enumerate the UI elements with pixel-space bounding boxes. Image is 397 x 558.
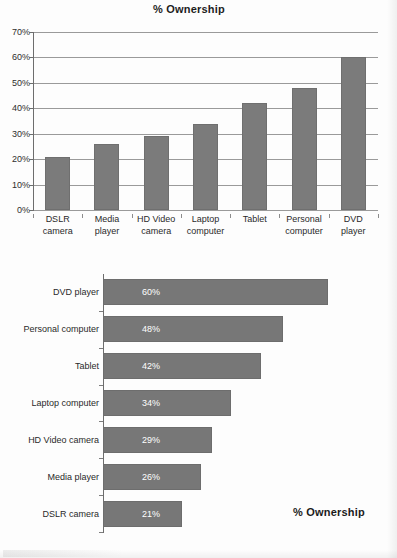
gridline xyxy=(33,210,378,211)
column-bar xyxy=(292,88,317,210)
bar-value-label: 48% xyxy=(142,324,160,334)
y-axis-tick-label: 30% xyxy=(2,129,30,139)
x-axis-category-line: computer xyxy=(279,226,328,238)
axis-tick-mark xyxy=(99,421,103,422)
axis-tick-mark xyxy=(99,348,103,349)
x-axis-category-line: Tablet xyxy=(230,214,279,226)
bar-chart-bar: 29% xyxy=(103,427,212,453)
column-chart-plot-area xyxy=(33,32,378,210)
bar-chart-bar: 48% xyxy=(103,316,283,342)
bar-category-label: HD Video camera xyxy=(3,435,99,445)
bar-chart-bar: 21% xyxy=(103,501,182,527)
bar-chart-bar: 42% xyxy=(103,353,261,379)
column-bar xyxy=(45,157,70,210)
y-axis-tick-label: 70% xyxy=(2,27,30,37)
x-axis-category-label: Laptopcomputer xyxy=(181,214,230,237)
column-bar xyxy=(341,57,366,210)
x-axis-category-line: computer xyxy=(181,226,230,238)
x-axis-category-line: Personal xyxy=(279,214,328,226)
y-axis-tick-label: 10% xyxy=(2,180,30,190)
x-axis-category-label: Personalcomputer xyxy=(279,214,328,237)
column-chart-title: % Ownership xyxy=(0,3,378,15)
x-axis-category-line: camera xyxy=(132,226,181,238)
bar-chart-bar: 60% xyxy=(103,279,328,305)
bar-category-label: DVD player xyxy=(3,287,99,297)
scan-artifact xyxy=(3,550,123,557)
bar-chart-bar: 26% xyxy=(103,464,201,490)
bar-chart-axis-line xyxy=(103,274,104,533)
column-bar xyxy=(144,136,169,210)
axis-tick-mark xyxy=(99,311,103,312)
x-axis-category-line: camera xyxy=(33,226,82,238)
axis-tick-mark xyxy=(99,495,103,496)
gridline xyxy=(33,57,378,58)
y-axis-tick-label: 20% xyxy=(2,154,30,164)
bar-value-label: 34% xyxy=(142,398,160,408)
gridline xyxy=(33,83,378,84)
axis-tick-mark xyxy=(99,532,103,533)
x-axis-category-line: HD Video xyxy=(132,214,181,226)
x-axis-category-line: DSLR xyxy=(33,214,82,226)
bar-chart-bar: 34% xyxy=(103,390,231,416)
x-axis-category-label: DSLRcamera xyxy=(33,214,82,237)
y-axis-tick-label: 0% xyxy=(2,205,30,215)
column-chart-y-axis-line xyxy=(33,32,34,211)
bar-chart-plot-area: 60%48%42%34%29%26%21% xyxy=(103,274,381,532)
bar-category-label: Personal computer xyxy=(3,324,99,334)
x-axis-category-label: DVDplayer xyxy=(329,214,378,237)
column-chart-x-axis-labels: DSLRcameraMediaplayerHD VideocameraLapto… xyxy=(33,214,378,256)
x-axis-category-line: player xyxy=(82,226,131,238)
y-axis-tick-label: 50% xyxy=(2,78,30,88)
bar-value-label: 42% xyxy=(142,361,160,371)
page-canvas: % Ownership 0%10%20%30%40%50%60%70% DSLR… xyxy=(0,0,397,558)
bar-category-label: Media player xyxy=(3,472,99,482)
column-bar xyxy=(242,103,267,210)
axis-tick-mark xyxy=(99,385,103,386)
bar-value-label: 29% xyxy=(142,435,160,445)
bar-value-label: 21% xyxy=(142,509,160,519)
bar-category-label: Tablet xyxy=(3,361,99,371)
x-axis-category-label: Mediaplayer xyxy=(82,214,131,237)
bar-chart-legend-label: % Ownership xyxy=(293,506,365,518)
x-axis-separator-tick xyxy=(33,214,34,218)
x-axis-category-label: Tablet xyxy=(230,214,279,226)
column-bar xyxy=(94,144,119,210)
gridline xyxy=(33,32,378,33)
bar-category-label: Laptop computer xyxy=(3,398,99,408)
x-axis-category-line: DVD xyxy=(329,214,378,226)
x-axis-category-line: Media xyxy=(82,214,131,226)
bar-category-label: DSLR camera xyxy=(3,509,99,519)
bar-chart: DVD playerPersonal computerTabletLaptop … xyxy=(0,268,390,540)
column-chart: % Ownership 0%10%20%30%40%50%60%70% DSLR… xyxy=(0,0,390,262)
y-axis-tick-label: 40% xyxy=(2,103,30,113)
bar-value-label: 60% xyxy=(142,287,160,297)
column-chart-y-axis-labels: 0%10%20%30%40%50%60%70% xyxy=(0,32,30,211)
x-axis-separator-tick xyxy=(378,214,379,218)
x-axis-category-label: HD Videocamera xyxy=(132,214,181,237)
column-bar xyxy=(193,124,218,210)
bar-value-label: 26% xyxy=(142,472,160,482)
x-axis-category-line: Laptop xyxy=(181,214,230,226)
x-axis-category-line: player xyxy=(329,226,378,238)
y-axis-tick-label: 60% xyxy=(2,52,30,62)
axis-tick-mark xyxy=(99,458,103,459)
bar-chart-category-labels: DVD playerPersonal computerTabletLaptop … xyxy=(0,274,99,532)
gridline xyxy=(33,108,378,109)
page-edge-shadow-bottom xyxy=(0,550,397,558)
